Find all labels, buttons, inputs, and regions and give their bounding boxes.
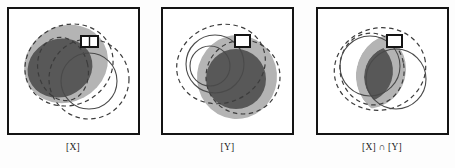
- region-marker-box: [387, 35, 402, 47]
- region-marker[interactable]: [81, 36, 98, 47]
- panel-y-label: [Y]: [221, 141, 235, 153]
- panel-x-and-y-graphic: [318, 9, 447, 133]
- panel-x-graphic: [9, 9, 138, 133]
- region-marker[interactable]: [387, 35, 402, 47]
- panel-x-frame: [7, 7, 140, 135]
- region-marker[interactable]: [235, 35, 250, 47]
- figure-container: [X] [Y]: [0, 0, 455, 168]
- panel-y-frame: [161, 7, 294, 135]
- panel-x-and-y-label-text: [X] ∩ [Y]: [362, 142, 402, 152]
- panel-x: [X]: [0, 0, 146, 168]
- panel-x-and-y: [X] ∩ [Y]: [309, 0, 455, 168]
- panel-y-graphic: [163, 9, 292, 133]
- panel-x-label: [X]: [66, 141, 80, 153]
- panel-y-label-text: [Y]: [221, 142, 235, 152]
- panel-y: [Y]: [155, 0, 301, 168]
- region-marker-box: [235, 35, 250, 47]
- panel-x-and-y-label: [X] ∩ [Y]: [362, 141, 402, 153]
- panel-x-and-y-frame: [316, 7, 449, 135]
